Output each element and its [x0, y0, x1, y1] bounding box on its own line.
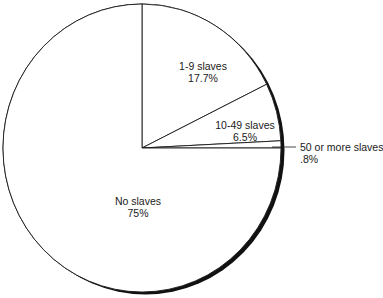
label-50-plus-slaves: 50 or more slaves .8%	[300, 141, 383, 165]
label-10-49-slaves-pct: 6.5%	[205, 131, 285, 143]
label-1-9-slaves: 1-9 slaves 17.7%	[163, 60, 243, 84]
label-no-slaves: No slaves 75%	[98, 195, 178, 219]
pie-slices	[3, 4, 281, 292]
label-50-plus-slaves-name: 50 or more slaves	[300, 141, 383, 153]
label-10-49-slaves-name: 10-49 slaves	[205, 119, 285, 131]
label-10-49-slaves: 10-49 slaves 6.5%	[205, 119, 285, 143]
label-no-slaves-name: No slaves	[98, 195, 178, 207]
label-1-9-slaves-name: 1-9 slaves	[163, 60, 243, 72]
label-50-plus-slaves-pct: .8%	[300, 153, 383, 165]
label-no-slaves-pct: 75%	[98, 207, 178, 219]
label-1-9-slaves-pct: 17.7%	[163, 72, 243, 84]
